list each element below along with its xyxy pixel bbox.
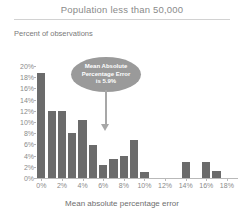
x-tick-mark — [62, 179, 63, 181]
x-tick-mark — [206, 179, 207, 181]
bar — [202, 162, 210, 178]
y-tick-label: 20% — [20, 63, 34, 70]
y-axis-labels: 0%2%4%6%8%10%12%14%16%18%20% — [0, 0, 34, 218]
bar — [140, 172, 148, 178]
x-tick-mark — [83, 179, 84, 181]
bar — [182, 162, 190, 178]
y-tick-mark — [34, 88, 36, 89]
x-tick-label: 18% — [217, 182, 237, 190]
chart-figure: Population less than 50,000 Percent of o… — [0, 0, 244, 218]
y-tick-mark — [34, 122, 36, 123]
title-divider — [14, 19, 230, 20]
bar — [212, 171, 220, 178]
y-tick-mark — [34, 156, 36, 157]
bar — [37, 73, 45, 178]
bar — [68, 133, 76, 178]
x-tick-mark — [144, 179, 145, 181]
bar — [89, 145, 97, 178]
annotation-text: Mean Absolute Percentage Error is 5.9% — [78, 63, 135, 85]
y-tick-label: 2% — [24, 163, 34, 170]
y-tick-mark — [34, 77, 36, 78]
y-tick-mark — [34, 133, 36, 134]
x-tick-mark — [227, 179, 228, 181]
y-tick-label: 12% — [20, 107, 34, 114]
x-tick-label: 8% — [114, 182, 134, 190]
bar — [99, 165, 107, 178]
bar — [109, 159, 117, 178]
annotation-arrow-head-icon — [101, 124, 109, 131]
x-tick-label: 0% — [31, 182, 51, 190]
y-tick-label: 4% — [24, 152, 34, 159]
y-tick-label: 10% — [20, 119, 34, 126]
chart-title-band: Population less than 50,000 — [0, 3, 244, 18]
annotation-line-1: Mean Absolute — [85, 63, 127, 69]
annotation-line-3: is 5.9% — [96, 78, 116, 84]
page-title: Population less than 50,000 — [0, 3, 244, 16]
x-tick-label: 6% — [93, 182, 113, 190]
x-tick-label: 2% — [52, 182, 72, 190]
bar — [78, 120, 86, 178]
x-tick-mark — [186, 179, 187, 181]
bar — [58, 111, 66, 178]
x-tick-mark — [103, 179, 104, 181]
y-tick-label: 16% — [20, 85, 34, 92]
x-tick-label: 12% — [155, 182, 175, 190]
y-tick-label: 0% — [24, 175, 34, 182]
annotation-line-2: Percentage Error — [82, 71, 131, 77]
bar — [120, 156, 128, 178]
x-tick-mark — [165, 179, 166, 181]
y-tick-label: 6% — [24, 141, 34, 148]
y-tick-mark — [34, 100, 36, 101]
y-tick-label: 18% — [20, 74, 34, 81]
x-tick-label: 10% — [134, 182, 154, 190]
y-tick-mark — [34, 144, 36, 145]
annotation-callout: Mean Absolute Percentage Error is 5.9% — [71, 57, 141, 92]
y-tick-mark — [34, 167, 36, 168]
y-tick-label: 14% — [20, 96, 34, 103]
y-tick-mark — [34, 66, 36, 67]
bar — [130, 140, 138, 178]
y-tick-mark — [34, 111, 36, 112]
bar — [48, 111, 56, 178]
plot-area — [36, 66, 238, 178]
y-tick-label: 8% — [24, 130, 34, 137]
x-tick-mark — [124, 179, 125, 181]
x-axis-caption: Mean absolute percentage error — [0, 199, 244, 208]
x-tick-label: 16% — [196, 182, 216, 190]
x-tick-mark — [41, 179, 42, 181]
x-tick-label: 14% — [176, 182, 196, 190]
annotation-arrow-shaft — [105, 90, 107, 126]
x-tick-label: 4% — [73, 182, 93, 190]
y-tick-mark — [34, 178, 36, 179]
x-axis-line — [36, 178, 238, 179]
